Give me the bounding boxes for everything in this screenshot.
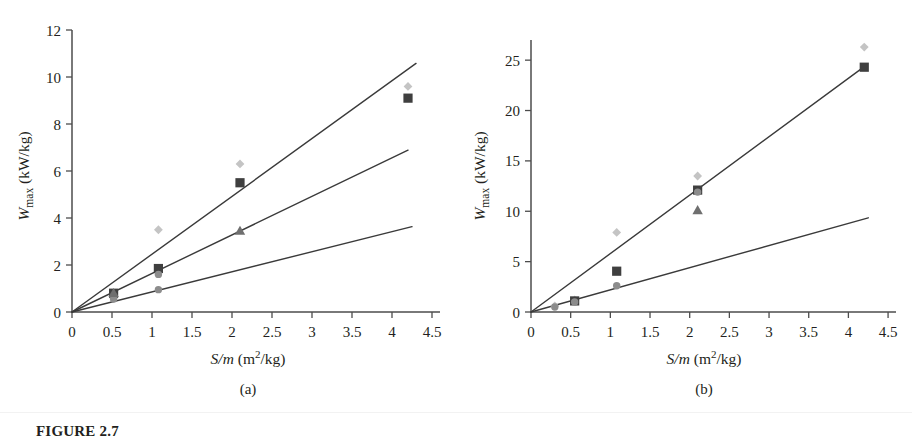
x-tick-label: 1	[607, 324, 615, 340]
x-tick-label: 4	[845, 324, 853, 340]
y-tick-label: 4	[54, 211, 62, 227]
x-axis-title-symbol: S/m	[211, 350, 234, 367]
fit-line	[72, 227, 412, 312]
data-point-circle	[571, 298, 578, 305]
x-axis-title: S/m (m2/kg)	[667, 348, 742, 368]
y-tick-label: 15	[505, 153, 520, 169]
data-point-diamond	[860, 43, 869, 52]
data-markers	[550, 43, 868, 311]
data-point-triangle	[235, 226, 245, 235]
x-tick-label: 3.5	[799, 324, 818, 340]
x-axis-title-symbol: S/m	[667, 350, 690, 367]
data-point-square	[403, 94, 412, 103]
y-axis-tick-labels: 0510152025	[505, 53, 520, 321]
x-tick-label: 4.5	[879, 324, 898, 340]
x-tick-label: 1	[148, 324, 156, 340]
y-tick-label: 8	[54, 117, 62, 133]
y-axis-title: Wmax (kW/kg)	[471, 131, 491, 220]
x-axis-tick-labels: 00.511.522.533.544.5	[68, 324, 441, 340]
data-point-square	[612, 267, 621, 276]
y-axis-title-units: (kW/kg)	[15, 131, 33, 187]
panel-b-svg: 0510152025 00.511.522.533.544.5 Wmax (kW…	[456, 0, 912, 400]
x-axis-title: S/m (m2/kg)	[211, 348, 286, 368]
x-tick-label: 2	[228, 324, 236, 340]
chart-panel-a: 024681012 00.511.522.533.544.5 Wmax (kW/…	[0, 0, 456, 400]
data-point-circle	[551, 303, 558, 310]
x-tick-label: 0	[68, 324, 76, 340]
data-point-circle	[155, 271, 162, 278]
fit-line	[72, 63, 416, 312]
y-axis-tick-labels: 024681012	[46, 23, 62, 321]
panel-b-sub-caption: (b)	[695, 381, 713, 398]
y-tick-label: 0	[54, 305, 62, 321]
data-markers	[108, 82, 412, 303]
y-axis-title: Wmax (kW/kg)	[15, 131, 35, 220]
data-point-diamond	[404, 82, 413, 91]
x-tick-label: 4	[388, 324, 396, 340]
y-tick-label: 20	[505, 103, 520, 119]
x-tick-label: 2.5	[263, 324, 282, 340]
x-tick-label: 0	[527, 324, 535, 340]
y-tick-label: 25	[505, 53, 520, 69]
figure-2-7: 024681012 00.511.522.533.544.5 Wmax (kW/…	[0, 0, 912, 437]
panel-a-axes	[66, 30, 440, 318]
x-tick-label: 1.5	[641, 324, 660, 340]
data-point-circle	[613, 282, 620, 289]
x-axis-title-tail: /kg)	[260, 350, 285, 368]
x-tick-label: 3	[765, 324, 773, 340]
y-axis-ticks	[525, 60, 531, 312]
data-point-diamond	[693, 172, 702, 181]
figure-caption-label: FIGURE 2.7	[36, 423, 119, 437]
data-point-diamond	[154, 225, 163, 234]
x-tick-label: 0.5	[103, 324, 122, 340]
y-tick-label: 6	[54, 164, 62, 180]
x-axis-title-tail: /kg)	[716, 350, 741, 368]
x-axis-tick-labels: 00.511.522.533.544.5	[527, 324, 897, 340]
y-tick-label: 12	[46, 23, 61, 39]
x-tick-label: 3.5	[343, 324, 362, 340]
y-axis-ticks	[66, 30, 72, 312]
data-point-circle	[694, 188, 701, 195]
y-tick-label: 2	[54, 258, 62, 274]
y-tick-label: 0	[513, 305, 521, 321]
data-point-triangle	[692, 205, 702, 214]
y-tick-label: 10	[505, 204, 520, 220]
fit-lines	[72, 63, 416, 312]
data-point-square	[860, 63, 869, 72]
data-point-circle	[155, 286, 162, 293]
x-axis-ticks	[531, 312, 888, 318]
panel-a-sub-caption: (a)	[240, 381, 257, 398]
panel-a-svg: 024681012 00.511.522.533.544.5 Wmax (kW/…	[0, 0, 456, 400]
x-tick-label: 4.5	[423, 324, 442, 340]
x-axis-title-units: (m	[690, 350, 711, 368]
x-tick-label: 3	[308, 324, 316, 340]
y-tick-label: 10	[46, 70, 61, 86]
fit-line	[531, 218, 868, 312]
x-axis-title-units: (m	[234, 350, 255, 368]
x-tick-label: 1.5	[183, 324, 202, 340]
data-point-diamond	[236, 160, 245, 169]
x-tick-label: 2	[686, 324, 694, 340]
caption-divider	[0, 412, 912, 413]
chart-panel-b: 0510152025 00.511.522.533.544.5 Wmax (kW…	[456, 0, 912, 400]
x-tick-label: 2.5	[720, 324, 739, 340]
y-tick-label: 5	[513, 254, 521, 270]
data-point-diamond	[612, 228, 621, 237]
data-point-square	[235, 178, 244, 187]
x-axis-ticks	[72, 312, 432, 318]
y-axis-title-units: (kW/kg)	[471, 131, 489, 187]
y-axis-title-subscript: max	[479, 188, 491, 208]
x-tick-label: 0.5	[561, 324, 580, 340]
y-axis-title-subscript: max	[23, 188, 35, 208]
